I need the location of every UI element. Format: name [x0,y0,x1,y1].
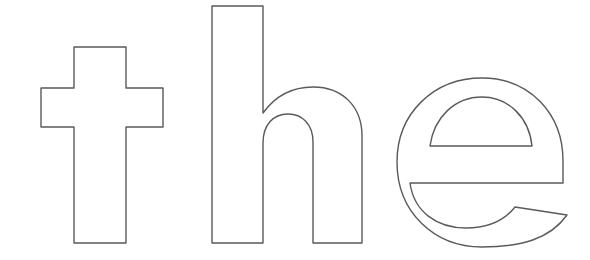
artwork-canvas: the the [0,0,590,260]
word-outline-the: the [0,0,590,260]
